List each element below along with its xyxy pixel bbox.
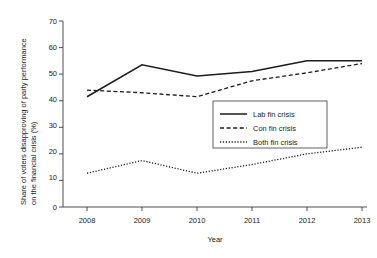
legend-label-lab-fin-crisis: Lab fin crisis xyxy=(253,110,295,119)
line-chart: Share of voters disapproving of party pe… xyxy=(0,0,377,258)
x-tick-label-2013: 2013 xyxy=(354,216,371,225)
chart-legend: Lab fin crisis Con fin crisis Both fin c… xyxy=(213,101,327,148)
y-tick-label-70: 70 xyxy=(49,17,57,26)
legend-label-con-fin-crisis: Con fin crisis xyxy=(253,124,296,133)
y-tick-label-0: 0 xyxy=(53,203,57,212)
chart-figure: Share of voters disapproving of party pe… xyxy=(0,0,377,258)
series-line-lab-fin-crisis xyxy=(87,61,362,97)
x-tick-label-2008: 2008 xyxy=(79,216,96,225)
x-tick-label-2011: 2011 xyxy=(244,216,260,225)
y-axis-title-line2: on the financial crisis (%) xyxy=(29,121,38,205)
series-line-con-fin-crisis xyxy=(87,64,362,97)
y-tick-label-20: 20 xyxy=(49,147,57,156)
y-tick-label-10: 10 xyxy=(49,173,57,182)
y-tick-label-30: 30 xyxy=(49,121,57,130)
y-axis-title-line1: Share of voters disapproving of party pe… xyxy=(19,38,28,205)
y-tick-label-40: 40 xyxy=(49,95,57,104)
y-tick-label-50: 50 xyxy=(49,69,57,78)
x-tick-label-2010: 2010 xyxy=(189,216,206,225)
x-tick-label-2009: 2009 xyxy=(134,216,151,225)
legend-label-both-fin-crisis: Both fin crisis xyxy=(253,138,298,147)
x-axis-title: Year xyxy=(207,235,223,244)
series-line-both-fin-crisis xyxy=(87,147,362,173)
y-tick-label-60: 60 xyxy=(49,43,57,52)
x-tick-label-2012: 2012 xyxy=(299,216,316,225)
